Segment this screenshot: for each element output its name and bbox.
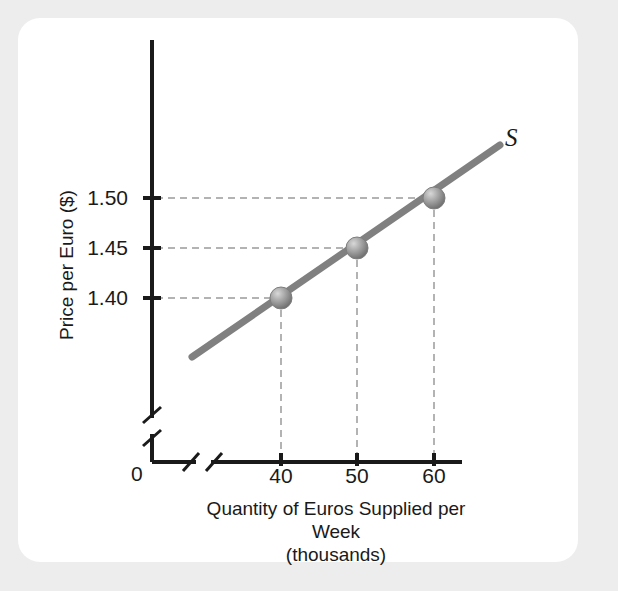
leader-lines — [156, 198, 434, 460]
y-axis — [143, 40, 161, 462]
data-point-50-145 — [346, 237, 368, 259]
data-point-40-140 — [270, 287, 292, 309]
x-tick-label-50: 50 — [334, 464, 380, 488]
x-axis-title-line1: Quantity of Euros Supplied per Week — [207, 498, 466, 542]
x-axis-title: Quantity of Euros Supplied per Week (tho… — [186, 497, 486, 567]
supply-curve-label: S — [505, 124, 518, 152]
x-tick-label-40: 40 — [258, 464, 304, 488]
y-axis-title: Price per Euro ($) — [56, 190, 78, 340]
x-tick-label-60: 60 — [411, 464, 457, 488]
origin-label: 0 — [131, 462, 143, 486]
x-axis-title-line2: (thousands) — [286, 544, 386, 565]
data-point-60-150 — [423, 187, 445, 209]
